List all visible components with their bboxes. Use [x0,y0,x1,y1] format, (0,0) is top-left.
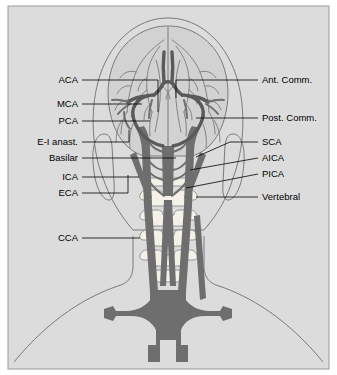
label-ant-comm: Ant. Comm. [262,74,312,85]
label-basilar: Basilar [49,152,78,163]
label-eca: ECA [58,187,78,198]
label-ei-anast: E-I anast. [37,136,78,147]
label-pica: PICA [262,168,285,179]
anatomical-figure: ACAMCAPCAE-I anast.BasilarICAECACCA Ant.… [0,0,337,375]
label-vertebral: Vertebral [262,191,300,202]
aca-ascending-right [172,52,173,82]
label-ica: ICA [62,171,79,182]
aca-ascending-left [163,52,164,82]
label-aica: AICA [262,152,285,163]
label-mca: MCA [57,98,79,109]
diagram-canvas: ACAMCAPCAE-I anast.BasilarICAECACCA Ant.… [0,0,337,375]
label-pca: PCA [58,115,78,126]
label-cca: CCA [58,232,79,243]
label-aca: ACA [58,74,78,85]
label-post-comm: Post. Comm. [262,112,317,123]
basilar-artery [162,146,174,196]
label-sca: SCA [262,136,282,147]
